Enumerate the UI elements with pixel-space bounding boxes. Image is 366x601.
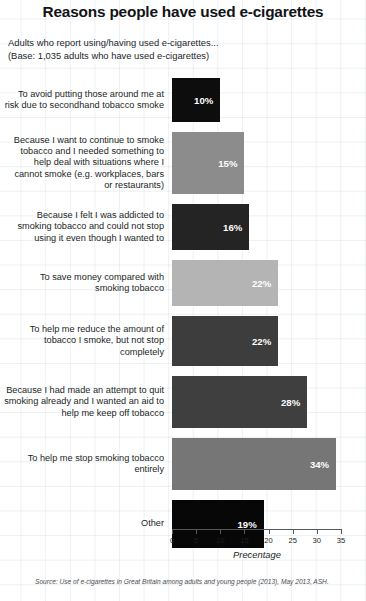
bar: 22% — [172, 260, 278, 306]
subtitle-line-1: Adults who report using/having used e-ci… — [8, 36, 348, 49]
bar-category-label: Because I felt I was addicted to smoking… — [4, 204, 164, 250]
bar-row: To avoid putting those around me at risk… — [0, 78, 366, 122]
bar-value-label: 28% — [281, 397, 307, 408]
x-axis-tick — [317, 529, 318, 534]
bar-row: To help me stop smoking tobacco entirely… — [0, 438, 366, 490]
bar-value-label: 22% — [252, 336, 278, 347]
bar-row: To help me reduce the amount of tobacco … — [0, 316, 366, 366]
bar-category-label: Because I had made an attempt to quit sm… — [4, 376, 164, 428]
x-axis-tick — [220, 529, 221, 534]
bar: 22% — [172, 316, 278, 366]
bar-row: Because I felt I was addicted to smoking… — [0, 204, 366, 250]
x-axis-tick — [244, 529, 245, 534]
bar-value-label: 15% — [218, 158, 244, 169]
bar: 28% — [172, 376, 307, 428]
x-axis-tick — [172, 529, 173, 534]
subtitle-line-2: (Base: 1,035 adults who have used e-ciga… — [8, 49, 348, 62]
x-axis-tick-label: 5 — [194, 536, 198, 545]
bar-category-label: Because I want to continue to smoke toba… — [4, 132, 164, 194]
bar-row: Other19% — [0, 500, 366, 548]
x-axis-title: Precentage — [172, 549, 342, 560]
bar-row: Because I had made an attempt to quit sm… — [0, 376, 366, 428]
source-note: Source: Use of e-cigarettes in Great Bri… — [35, 578, 355, 585]
x-axis-tick — [341, 529, 342, 534]
plot-area: To avoid putting those around me at risk… — [0, 74, 366, 529]
x-axis-tick-label: 35 — [337, 536, 345, 545]
x-axis-tick-label: 0 — [170, 536, 174, 545]
bar-category-label: To help me reduce the amount of tobacco … — [4, 316, 164, 366]
x-axis-tick — [196, 529, 197, 534]
x-axis-tick-label: 20 — [264, 536, 272, 545]
x-axis-tick-label: 10 — [216, 536, 224, 545]
bar: 16% — [172, 204, 249, 250]
chart-subtitle: Adults who report using/having used e-ci… — [8, 36, 348, 62]
bar-row: Because I want to continue to smoke toba… — [0, 132, 366, 194]
x-axis-tick-label: 15 — [240, 536, 248, 545]
bar-category-label: Other — [4, 500, 164, 548]
bar: 10% — [172, 78, 220, 122]
x-axis-tick-label: 30 — [313, 536, 321, 545]
bar-row: To save money compared with smoking toba… — [0, 260, 366, 306]
x-axis-tick — [269, 529, 270, 534]
bar-value-label: 22% — [252, 278, 278, 289]
x-axis-tick — [293, 529, 294, 534]
bar-category-label: To save money compared with smoking toba… — [4, 260, 164, 306]
bar-value-label: 10% — [194, 95, 220, 106]
bar-value-label: 34% — [310, 459, 336, 470]
bar: 34% — [172, 438, 336, 490]
bar-chart: Reasons people have used e-cigarettes Ad… — [0, 0, 366, 601]
bar-category-label: To avoid putting those around me at risk… — [4, 78, 164, 122]
bar-value-label: 16% — [223, 222, 249, 233]
bar: 15% — [172, 132, 244, 194]
bar-value-label: 19% — [238, 519, 264, 530]
bar-category-label: To help me stop smoking tobacco entirely — [4, 438, 164, 490]
chart-title: Reasons people have used e-cigarettes — [0, 3, 366, 21]
x-axis-tick-label: 25 — [288, 536, 296, 545]
